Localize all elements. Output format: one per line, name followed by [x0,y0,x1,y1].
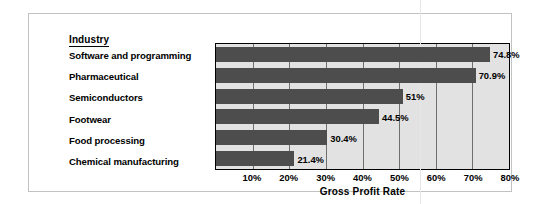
x-axis-tick-label: 60% [427,172,446,183]
bar: 51% [216,89,403,104]
chart-frame: Industry Software and programmingPharmac… [28,13,512,192]
category-label: Pharmaceutical [69,71,215,92]
category-label-list: Software and programmingPharmaceuticalSe… [69,50,215,177]
x-axis-title: Gross Profit Rate [215,186,510,197]
category-label: Semiconductors [69,92,215,113]
bar-value-label: 21.4% [297,153,324,164]
bar: 30.4% [216,130,327,145]
bar: 44.5% [216,109,379,124]
category-label: Chemical manufacturing [69,156,215,177]
plot-area: 74.8%70.9%51%44.5%30.4%21.4% [215,43,510,170]
x-axis-tick-label: 80% [501,172,520,183]
category-label: Software and programming [69,50,215,71]
chart-screenshot: Industry Software and programmingPharmac… [0,0,536,204]
x-axis-tick-labels: 10%20%30%40%50%60%70%80% [215,172,510,184]
bar-value-label: 70.9% [479,70,506,81]
bar-value-label: 44.5% [382,111,409,122]
x-axis-tick-label: 10% [242,172,261,183]
bar-row: 44.5% [216,106,509,127]
x-axis-tick-label: 40% [353,172,372,183]
x-axis-tick-label: 70% [464,172,483,183]
bar-row: 51% [216,86,509,107]
bar-value-label: 51% [406,91,425,102]
x-axis-tick-label: 20% [279,172,298,183]
x-axis-tick-label: 30% [316,172,335,183]
legend-header: Industry [69,34,109,47]
category-label: Food processing [69,135,215,156]
bar-row: 70.9% [216,65,509,86]
bar: 74.8% [216,47,490,62]
bar-value-label: 30.4% [330,132,357,143]
bar-row: 21.4% [216,148,509,169]
category-label: Footwear [69,114,215,135]
bar: 70.9% [216,68,476,83]
bar-group: 74.8%70.9%51%44.5%30.4%21.4% [216,44,509,169]
bar-row: 30.4% [216,127,509,148]
bar: 21.4% [216,151,294,166]
bar-value-label: 74.8% [493,49,520,60]
bar-row: 74.8% [216,44,509,65]
x-axis-tick-label: 50% [390,172,409,183]
